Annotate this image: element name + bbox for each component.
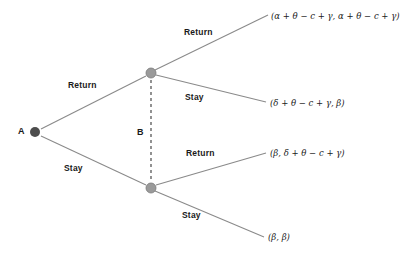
node-label-b-information-set: B — [137, 127, 144, 137]
edge-btop-return — [155, 15, 268, 70]
payoff-label-2: (δ + θ − c + γ, β) — [270, 98, 345, 108]
action-label-a-return: Return — [68, 80, 97, 90]
action-label-bbottom-stay: Stay — [182, 210, 201, 220]
tree-graphics — [0, 0, 408, 262]
action-label-bbottom-return: Return — [186, 148, 215, 158]
node-b-bottom[interactable] — [146, 183, 156, 193]
payoff-label-4: (β, β) — [268, 232, 290, 242]
action-label-btop-return: Return — [184, 27, 213, 37]
edge-btop-stay — [156, 75, 266, 102]
node-a[interactable] — [30, 127, 40, 137]
payoff-label-3: (β, δ + θ − c + γ) — [270, 148, 345, 158]
payoff-label-1: (α + θ − c + γ, α + θ − c + γ) — [271, 11, 400, 21]
edge-a-stay — [41, 136, 146, 185]
node-b-top[interactable] — [146, 68, 156, 78]
edge-bbottom-stay — [155, 191, 264, 237]
action-label-btop-stay: Stay — [185, 92, 204, 102]
node-label-a: A — [18, 126, 25, 136]
game-tree-diagram: A B Return Stay Return Stay Return Stay … — [0, 0, 408, 262]
action-label-a-stay: Stay — [64, 163, 83, 173]
